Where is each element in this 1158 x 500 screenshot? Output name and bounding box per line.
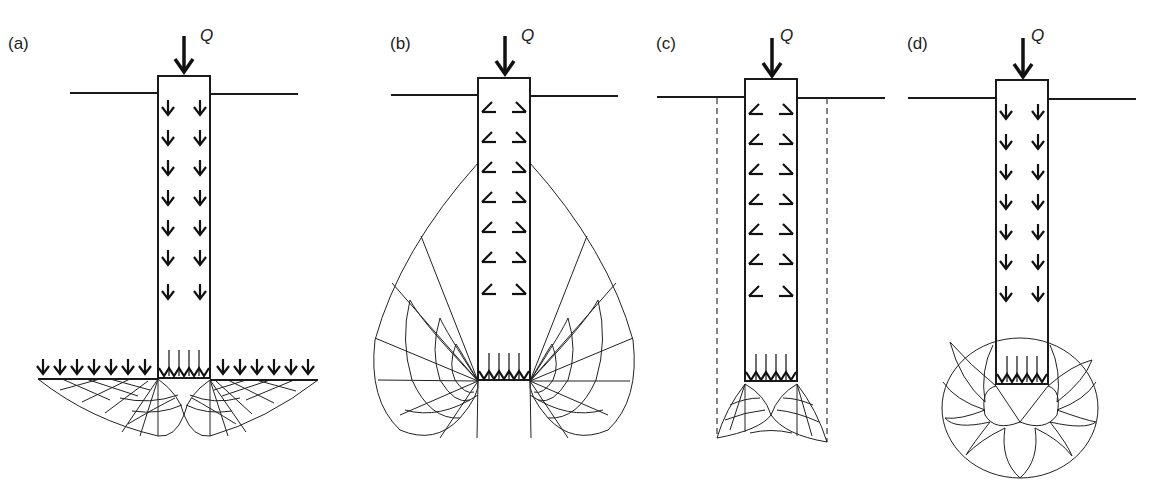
cavity-expansion-bulb bbox=[942, 338, 1098, 478]
shaft-friction-arrows bbox=[749, 104, 793, 296]
load-arrow-icon bbox=[496, 36, 514, 74]
panel-b bbox=[374, 36, 635, 438]
failure-zone-mesh bbox=[717, 384, 827, 455]
base-bearing-arrows bbox=[746, 354, 796, 380]
pile-shaft bbox=[158, 76, 210, 378]
base-bearing-arrows bbox=[997, 356, 1047, 382]
failure-zone-mesh bbox=[38, 379, 318, 436]
panel-d bbox=[908, 38, 1136, 478]
panel-c bbox=[657, 38, 885, 455]
load-arrow-icon bbox=[763, 38, 781, 76]
shaft-friction-arrows bbox=[1000, 104, 1044, 301]
panel-a bbox=[37, 36, 318, 436]
base-bearing-arrows bbox=[479, 353, 529, 379]
shaft-friction-arrows bbox=[482, 102, 526, 294]
base-bearing-arrows bbox=[159, 350, 209, 376]
failure-zone-mesh bbox=[374, 163, 635, 438]
pile-mechanisms-figure: (a) Q (b) Q (c) Q (d) Q bbox=[0, 0, 1158, 500]
shaft-friction-arrows bbox=[162, 100, 206, 299]
load-arrow-icon bbox=[1014, 38, 1032, 77]
load-arrow-icon bbox=[175, 36, 193, 72]
diagram-canvas bbox=[0, 0, 1158, 500]
